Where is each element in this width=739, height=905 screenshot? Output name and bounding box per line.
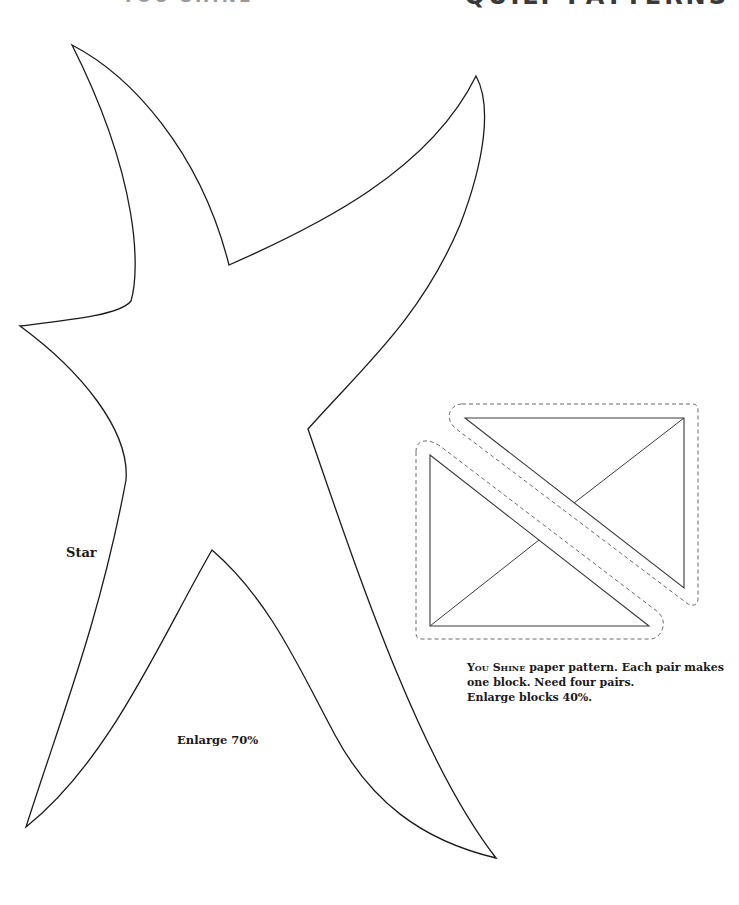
caption-line-2: one block. Need four pairs. [467,675,739,690]
caption-line-1-rest: paper pattern. Each pair makes [525,661,724,674]
lower-block-piece [416,441,663,639]
upper-block-piece [449,404,698,605]
star-label: Star [66,545,97,560]
caption-line-1: You Shine paper pattern. Each pair makes [467,660,739,675]
pattern-page: YOU SHINE QUILT PATTERNS Star Enlarge 70… [0,0,739,905]
caption-pattern-name: You Shine [467,661,525,674]
caption-line-3: Enlarge blocks 40%. [467,690,739,705]
star-enlarge-note: Enlarge 70% [177,733,258,747]
upper-block-diagonal [574,418,684,503]
block-pattern-caption: You Shine paper pattern. Each pair makes… [467,660,739,705]
lower-block-diagonal [430,540,539,626]
pattern-artwork [0,0,739,905]
